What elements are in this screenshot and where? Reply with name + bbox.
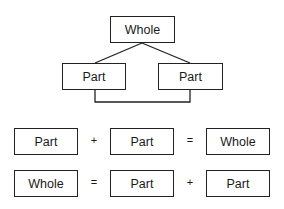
eq2-operator-1: = [87,176,101,188]
tree-part-left: Part [62,63,126,90]
tree-part-right: Part [158,63,223,90]
tree-root-whole: Whole [110,16,175,43]
eq2-term-2: Part [110,170,174,197]
eq1-term-2: Part [110,128,174,155]
eq1-operator-1: + [87,134,101,146]
eq2-term-3: Part [206,170,270,197]
eq1-operator-2: = [183,134,197,146]
eq1-term-3: Whole [206,128,270,155]
eq2-operator-2: + [183,176,197,188]
eq1-term-1: Part [14,128,78,155]
eq2-term-1: Whole [14,170,78,197]
